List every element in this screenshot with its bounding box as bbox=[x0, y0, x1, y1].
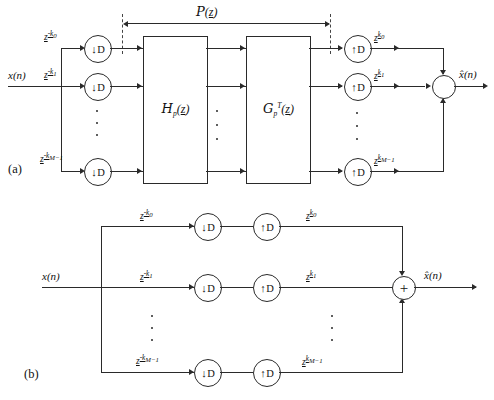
panel-b-output-label: x̂(n) bbox=[424, 270, 442, 281]
down-arrow-icon: ↓ bbox=[201, 221, 207, 233]
down-arrow-icon: ↓ bbox=[91, 43, 97, 55]
panel-a-branch-0-delay-label: z-k0 bbox=[44, 31, 57, 43]
panel-b-branch-0-delay-label: z-k0 bbox=[140, 210, 153, 222]
down-arrow-icon: ↓ bbox=[201, 367, 207, 379]
panel-a-collect-m bbox=[398, 171, 444, 172]
panel-b-branch-0-downsampler: ↓D bbox=[194, 213, 222, 241]
panel-b-branch-0-mid-line bbox=[220, 226, 253, 227]
panel-b-branch-0-advance-line bbox=[279, 226, 403, 227]
panel-a-span-arrow-right bbox=[325, 21, 330, 27]
panel-a-branch-0-block-arrow bbox=[137, 45, 142, 51]
panel-a-span-line bbox=[125, 23, 329, 24]
down-arrow-icon: ↓ bbox=[201, 282, 207, 294]
panel-a-interblock-0-arrow bbox=[240, 45, 245, 51]
panel-a-branch-0-delay-line bbox=[61, 48, 82, 49]
panel-b-branch-m-downsampler: ↓D bbox=[194, 359, 222, 387]
panel-a-interblock-ellipsis bbox=[215, 110, 219, 140]
panel-b-branch-0-delay-line bbox=[101, 226, 194, 227]
panel-b-branch-1-delay-label: z-k1 bbox=[140, 271, 153, 283]
panel-b-branch-0-upsampler: ↑D bbox=[253, 213, 281, 241]
panel-a-out-0-arrow bbox=[338, 45, 343, 51]
panel-a-branch-1-block-arrow bbox=[137, 83, 142, 89]
panel-b-input-bus bbox=[101, 226, 102, 372]
panel-b-branch-1-advance-label: zk1 bbox=[306, 271, 316, 283]
panel-a-caption: (a) bbox=[8, 163, 22, 176]
panel-a-branch-0-advance-label: zk0 bbox=[374, 32, 384, 44]
panel-b-branch-1-delay-line bbox=[101, 287, 194, 288]
panel-a-output-line bbox=[454, 86, 486, 87]
panel-a-branch-1-delay-label: z-k1 bbox=[44, 69, 57, 81]
panel-b-branch-m-advance-label: zkM−1 bbox=[302, 356, 323, 368]
panel-a-branch-0-upsampler: ↑D bbox=[344, 35, 372, 63]
panel-a-branch-1-upsampler: ↑D bbox=[344, 73, 372, 101]
panel-a-input-line bbox=[8, 86, 62, 87]
panel-b-input-line bbox=[42, 287, 102, 288]
panel-a-branch-0-downsampler: ↓D bbox=[84, 35, 112, 63]
panel-a-collect-0 bbox=[398, 48, 444, 49]
panel-a-branch-m-delay-line bbox=[61, 171, 82, 172]
up-arrow-icon: ↑ bbox=[260, 367, 266, 379]
panel-a-input-label: x(n) bbox=[8, 70, 26, 81]
figure-canvas: P(z) x(n) z-k0 ↓D z-k1 ↓D z-kM−1 ↓D bbox=[0, 0, 494, 400]
down-arrow-icon: ↓ bbox=[91, 166, 97, 178]
panel-a-branch-1-advance-label: zk1 bbox=[374, 70, 384, 82]
panel-a-out-1-arrow bbox=[338, 83, 343, 89]
panel-a-output-arrow bbox=[483, 83, 488, 89]
panel-b-branch-1-downsampler: ↓D bbox=[194, 274, 222, 302]
panel-a-branch-1-downsampler: ↓D bbox=[84, 73, 112, 101]
panel-a-collect-bus-bottom bbox=[443, 99, 444, 171]
panel-b-branch-m-mid-line bbox=[220, 372, 253, 373]
panel-b-summing-junction: + bbox=[392, 276, 416, 300]
panel-b-output-line bbox=[414, 287, 476, 288]
panel-a-span-label: P(z) bbox=[196, 5, 217, 18]
panel-b-collect-bus-bottom bbox=[402, 300, 403, 372]
panel-b-input-label: x(n) bbox=[42, 271, 60, 282]
panel-a-interblock-1-arrow bbox=[240, 83, 245, 89]
panel-b-branch-1-advance-line bbox=[279, 287, 399, 288]
panel-a-summing-junction bbox=[432, 75, 456, 99]
panel-b-branch-1-upsampler: ↑D bbox=[253, 274, 281, 302]
panel-a-branch-m-downsampler: ↓D bbox=[84, 158, 112, 186]
up-arrow-icon: ↑ bbox=[260, 221, 266, 233]
panel-a-interblock-m-arrow bbox=[240, 168, 245, 174]
panel-a-block-hp: Hp(z) bbox=[143, 36, 208, 184]
panel-b-branch-m-delay-line bbox=[101, 372, 194, 373]
panel-a-sum-in-left-arrow bbox=[426, 83, 431, 89]
panel-b-branch-0-advance-label: zk0 bbox=[306, 210, 316, 222]
panel-a-span-label-name: P bbox=[196, 4, 205, 19]
panel-a-out-m-arrow bbox=[338, 168, 343, 174]
up-arrow-icon: ↑ bbox=[351, 166, 357, 178]
down-arrow-icon: ↓ bbox=[91, 81, 97, 93]
panel-b-branch-m-upsampler: ↑D bbox=[253, 359, 281, 387]
panel-a-output-ellipsis bbox=[355, 112, 359, 140]
panel-b-branch-1-mid-line bbox=[220, 287, 253, 288]
panel-a-branch-1-delay-line bbox=[61, 86, 82, 87]
up-arrow-icon: ↑ bbox=[260, 282, 266, 294]
panel-a-branch-m-advance-label: zkM−1 bbox=[374, 155, 395, 167]
panel-a-branch-m-block-arrow bbox=[137, 168, 142, 174]
panel-b-input-ellipsis bbox=[150, 315, 154, 341]
panel-a-adv-1-arrow bbox=[394, 83, 399, 89]
panel-b-collect-bus-top bbox=[402, 226, 403, 274]
panel-b-branch-m-delay-label: z-kM−1 bbox=[136, 355, 159, 367]
panel-b-branch-m-advance-line bbox=[279, 372, 403, 373]
panel-a-input-ellipsis bbox=[95, 110, 99, 136]
up-arrow-icon: ↑ bbox=[351, 81, 357, 93]
up-arrow-icon: ↑ bbox=[351, 43, 357, 55]
panel-a-span-arrow-left bbox=[123, 21, 128, 27]
panel-a-block-gp: GpT(z) bbox=[246, 36, 311, 184]
panel-b-output-arrow bbox=[472, 284, 477, 290]
panel-b-output-ellipsis bbox=[330, 315, 334, 341]
panel-a-branch-m-upsampler: ↑D bbox=[344, 158, 372, 186]
panel-b-caption: (b) bbox=[24, 368, 39, 381]
panel-a-branch-m-delay-label: z-kM−1 bbox=[40, 153, 63, 165]
panel-b-summing-symbol: + bbox=[400, 281, 408, 296]
panel-a-output-label: x̂(n) bbox=[459, 69, 477, 80]
